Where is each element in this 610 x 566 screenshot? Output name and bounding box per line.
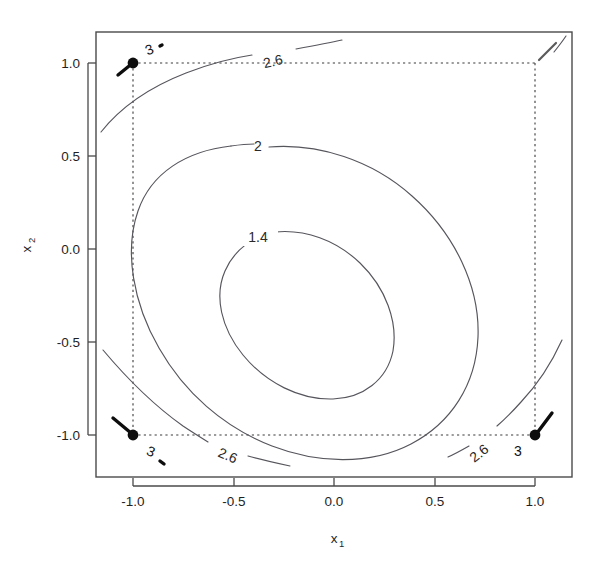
plot-frame bbox=[96, 32, 572, 477]
y-tick-label-1: 0.5 bbox=[61, 149, 80, 164]
y-axis-title-main: x bbox=[19, 245, 34, 252]
marker-arrow-bottom-right bbox=[537, 413, 552, 433]
plot-canvas: 2 1.4 2.6 2.6 2.6 3 3 bbox=[0, 0, 610, 566]
x-tick-label-4: 1.0 bbox=[526, 494, 545, 509]
contour-path-2-right bbox=[131, 146, 478, 460]
x-axis-title-main: x bbox=[331, 531, 338, 546]
x-tick-label-1: -0.5 bbox=[222, 494, 245, 509]
x-axis-title-sub: 1 bbox=[339, 538, 344, 549]
marker-label-top-left: 3 bbox=[143, 40, 156, 58]
x-tick-label-2: 0.0 bbox=[325, 494, 344, 509]
marker-arrow-top-right bbox=[539, 43, 556, 60]
marked-point-top-left[interactable]: 3 bbox=[118, 40, 162, 75]
x-axis: -1.0 -0.5 0.0 0.5 1.0 bbox=[121, 478, 544, 509]
contour-path-2.6-bl-a bbox=[103, 350, 208, 442]
contour-level-2 bbox=[131, 144, 478, 460]
y-axis: 1.0 0.5 0.0 -0.5 -1.0 bbox=[57, 56, 96, 443]
x-tick-label-0: -1.0 bbox=[121, 494, 144, 509]
marked-point-top-right[interactable] bbox=[539, 43, 556, 60]
contour-path-2.6-bl-b bbox=[248, 456, 290, 466]
contour-label-2.6-bottom-left: 2.6 bbox=[216, 444, 240, 466]
marked-point-bottom-right[interactable]: 3 bbox=[514, 413, 552, 459]
contour-path-1.4 bbox=[220, 232, 394, 400]
marker-label-bottom-right: 3 bbox=[514, 443, 522, 459]
guide-lines bbox=[133, 63, 535, 435]
marker-tick-bottom-left bbox=[160, 461, 164, 464]
x-tick-label-3: 0.5 bbox=[426, 494, 445, 509]
contour-path-2.6-br-b bbox=[448, 446, 469, 457]
marked-point-bottom-left[interactable]: 3 bbox=[113, 418, 164, 464]
y-tick-label-0: 1.0 bbox=[61, 56, 80, 71]
contour-label-2: 2 bbox=[254, 138, 262, 154]
contour-label-1.4: 1.4 bbox=[248, 229, 268, 245]
contour-label-2.6-top-left: 2.6 bbox=[262, 51, 285, 71]
y-axis-title: x 2 bbox=[19, 238, 37, 253]
marker-dot-bottom-right bbox=[530, 430, 541, 441]
marker-arrow-bottom-left bbox=[113, 418, 131, 433]
contour-plot-figure: 2 1.4 2.6 2.6 2.6 3 3 bbox=[0, 0, 610, 566]
marker-label-bottom-left: 3 bbox=[144, 442, 157, 460]
contour-level-1.4 bbox=[220, 232, 394, 400]
marker-tick-top-left bbox=[160, 45, 162, 46]
contour-level-2.6-bottom-left bbox=[103, 350, 290, 466]
y-axis-title-sub: 2 bbox=[26, 238, 37, 243]
y-tick-label-4: -1.0 bbox=[57, 428, 80, 443]
contour-label-2.6-bottom-right: 2.6 bbox=[466, 441, 491, 466]
marker-dot-bottom-left bbox=[128, 430, 139, 441]
contour-path-2-leftstub bbox=[231, 144, 254, 146]
x-axis-title: x 1 bbox=[331, 531, 345, 549]
y-tick-label-3: -0.5 bbox=[57, 335, 80, 350]
contour-path-2.6-tl-a bbox=[101, 55, 252, 132]
y-tick-label-2: 0.0 bbox=[61, 242, 80, 257]
contour-level-2.6-bottom-right bbox=[448, 340, 562, 457]
contour-path-2.6-tl-b bbox=[296, 40, 342, 49]
contour-level-2.6-top-left bbox=[101, 40, 342, 132]
marker-dot-top-left bbox=[128, 58, 139, 69]
